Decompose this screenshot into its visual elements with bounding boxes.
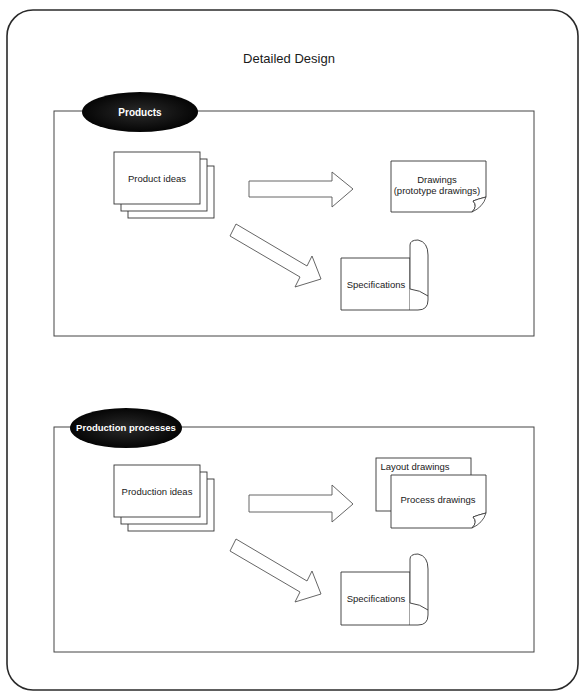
drawings-label-line2: (prototype drawings) xyxy=(394,185,481,196)
production-ideas-label: Production ideas xyxy=(122,486,193,497)
production-processes-badge-label: Production processes xyxy=(76,422,176,433)
production-ideas-stack: Production ideas xyxy=(114,465,214,531)
layout-drawings-label: Layout drawings xyxy=(380,461,449,472)
drawings-label-line1: Drawings xyxy=(417,174,457,185)
drawings-document: Drawings (prototype drawings) xyxy=(391,161,486,212)
detailed-design-diagram: Detailed Design Products Product ideas D… xyxy=(0,0,583,695)
specifications-label: Specifications xyxy=(347,593,406,604)
product-ideas-stack: Product ideas xyxy=(114,152,214,218)
page-title: Detailed Design xyxy=(243,51,335,66)
products-badge-label: Products xyxy=(118,107,162,118)
product-ideas-label: Product ideas xyxy=(128,173,186,184)
process-drawings-document: Process drawings xyxy=(391,475,486,528)
process-drawings-label: Process drawings xyxy=(401,494,476,505)
specifications-label: Specifications xyxy=(347,279,406,290)
